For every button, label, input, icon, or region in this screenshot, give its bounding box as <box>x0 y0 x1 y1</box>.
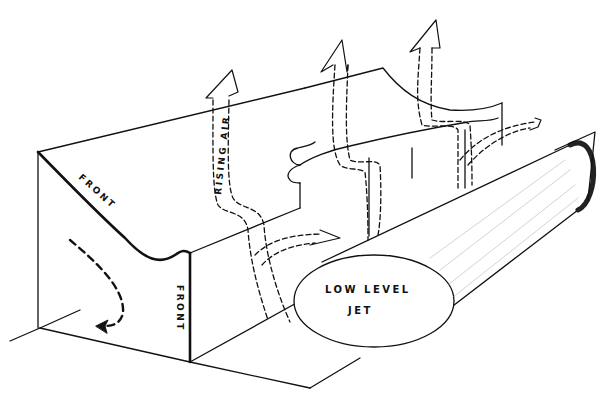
circulation-arrow <box>70 240 123 333</box>
jet-label-line1: LOW LEVEL <box>325 284 411 295</box>
jet-inflow-arrowhead-2 <box>530 118 541 130</box>
front-label-vertical: FRONT <box>175 285 185 332</box>
jet-label-line2: JET <box>347 305 373 316</box>
rising-air-arrow-3 <box>418 48 472 188</box>
rising-air-arrowhead-3 <box>410 20 440 52</box>
frontal-surface <box>38 152 190 362</box>
rising-air-arrow-2 <box>333 65 381 240</box>
low-level-jet-diagram: FRONT FRONT RISING AIR LOW LEVEL JET <box>0 0 609 402</box>
front-label-top: FRONT <box>77 172 119 211</box>
rising-air-arrowhead-1 <box>206 70 238 98</box>
rising-air-label: RISING AIR <box>213 114 231 195</box>
